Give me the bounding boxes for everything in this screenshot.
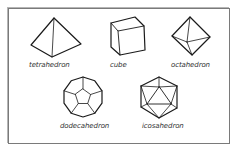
icosahedron-shape [141, 77, 177, 118]
octahedron-label: octahedron [171, 61, 210, 69]
dodecahedron-label: dodecahedron [60, 122, 109, 130]
tetrahedron-shape [31, 18, 81, 57]
cube-label: cube [110, 61, 127, 69]
octahedron-shape [172, 17, 210, 55]
cube-shape [111, 17, 145, 55]
icosahedron-label: icosahedron [142, 122, 184, 130]
platonic-solids-diagram [0, 0, 233, 149]
dodecahedron-shape [64, 77, 102, 117]
tetrahedron-label: tetrahedron [29, 61, 70, 69]
